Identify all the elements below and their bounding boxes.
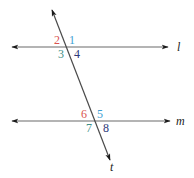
angle-3-label: 3 bbox=[58, 47, 64, 61]
line-l: l bbox=[12, 40, 181, 54]
angle-1-label: 1 bbox=[69, 33, 75, 47]
angle-2-label: 2 bbox=[54, 33, 60, 47]
transversal-t-label: t bbox=[110, 160, 114, 174]
transversal-t-segment bbox=[52, 10, 110, 160]
angle-7-label: 7 bbox=[86, 121, 92, 135]
line-m-label: m bbox=[176, 114, 185, 128]
line-l-label: l bbox=[177, 40, 181, 54]
angle-5-label: 5 bbox=[97, 107, 103, 121]
transversal-t: t bbox=[52, 10, 114, 174]
angle-4-label: 4 bbox=[74, 47, 80, 61]
parallel-lines-transversal-diagram: l m t 2 1 3 4 6 5 7 8 bbox=[0, 0, 194, 178]
angle-8-label: 8 bbox=[103, 121, 109, 135]
angle-6-label: 6 bbox=[81, 107, 87, 121]
